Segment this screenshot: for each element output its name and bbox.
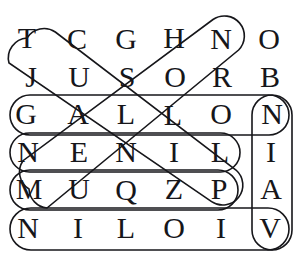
grid-letter: B: [260, 62, 280, 92]
grid-letter: R: [212, 62, 232, 92]
grid-letter: O: [258, 24, 280, 54]
grid-letter: L: [164, 100, 182, 130]
grid-letter: I: [266, 137, 276, 167]
grid-letter: J: [25, 62, 37, 92]
niloiv-row-highlight: [10, 208, 289, 250]
grid-letter: I: [73, 213, 83, 243]
gallon-row-highlight: [10, 95, 289, 135]
grid-letter: A: [260, 174, 282, 204]
grid-letter: A: [67, 99, 89, 129]
grid-letter: Z: [165, 174, 183, 204]
grid-letter: I: [169, 137, 179, 167]
grid-letter: I: [216, 213, 226, 243]
grid-letter: N: [210, 24, 232, 54]
grid-letter: U: [68, 62, 90, 92]
grid-letter: L: [117, 99, 135, 129]
grid-letter: P: [211, 174, 228, 204]
grid-letter: E: [70, 137, 88, 167]
grid-letter: N: [17, 137, 39, 167]
word-search-puzzle: T C G H N O J U S O R B G A L L O N N E …: [0, 0, 303, 257]
grid-letter: G: [115, 24, 137, 54]
grid-letter: V: [259, 213, 281, 243]
grid-letter: O: [163, 213, 185, 243]
grid-letter: S: [119, 62, 136, 92]
grid-letter: H: [163, 23, 185, 53]
grid-letter: L: [211, 137, 229, 167]
grid-letter: N: [115, 137, 137, 167]
grid-letter: O: [164, 62, 186, 92]
grid-letter: C: [67, 24, 87, 54]
grid-letter: M: [16, 174, 43, 204]
grid-letter: U: [68, 174, 90, 204]
grid-letter: L: [117, 213, 135, 243]
grid-letter: T: [18, 23, 36, 53]
grid-letter: Q: [115, 175, 137, 205]
grid-letter: G: [15, 99, 37, 129]
grid-letter: O: [210, 99, 232, 129]
grid-letter: N: [261, 99, 283, 129]
grid-letter: N: [17, 213, 39, 243]
